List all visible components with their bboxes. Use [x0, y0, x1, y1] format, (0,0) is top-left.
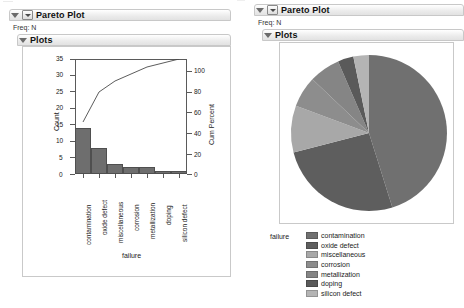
legend-items: contamination oxide defect miscellaneous… [306, 231, 365, 298]
plots-header-left[interactable]: Plots [19, 34, 53, 45]
context-menu-icon[interactable] [22, 10, 33, 20]
legend-label: corrosion [321, 261, 350, 268]
cumulative-percent-line [75, 59, 188, 175]
freq-label: Freq: N [13, 24, 36, 31]
legend-item[interactable]: miscellaneous [306, 250, 365, 260]
legend-label: doping [321, 280, 342, 287]
disclosure-triangle-icon[interactable] [11, 13, 19, 18]
category-label: silicon defect [181, 204, 188, 242]
legend-item[interactable]: contamination [306, 231, 365, 241]
x-axis-title: failure [122, 252, 141, 259]
pie-legend: failure contamination oxide defect misce… [232, 0, 458, 308]
legend-item[interactable]: metallization [306, 269, 365, 279]
legend-swatch-icon [306, 242, 318, 249]
legend-swatch-icon [306, 271, 318, 278]
panel-title: Pareto Plot [36, 10, 85, 20]
legend-item[interactable]: corrosion [306, 260, 365, 270]
legend-swatch-icon [306, 251, 318, 258]
category-label: corrosion [133, 204, 140, 231]
legend-swatch-icon [306, 261, 318, 268]
bar-chart-container: Count Cum Percent failure 0 5 10 15 20 2… [22, 46, 231, 277]
legend-item[interactable]: silicon defect [306, 289, 365, 299]
legend-swatch-icon [306, 232, 318, 239]
legend-item[interactable]: doping [306, 279, 365, 289]
scan-artifact [237, 0, 245, 1]
legend-item[interactable]: oxide defect [306, 241, 365, 251]
category-label: oxide defect [101, 200, 108, 235]
legend-label: silicon defect [321, 290, 361, 297]
legend-title: failure [270, 233, 289, 240]
legend-label: contamination [321, 232, 365, 239]
plots-section-title: Plots [30, 35, 53, 45]
legend-label: miscellaneous [321, 251, 365, 258]
legend-label: oxide defect [321, 242, 359, 249]
category-label: metallization [149, 203, 156, 239]
pareto-plot-panel-right: Pareto Plot Freq: N Plots [232, 0, 458, 308]
y2-axis-title: Cum Percent [208, 104, 215, 145]
panel-header-left[interactable]: Pareto Plot [11, 9, 85, 20]
legend-swatch-icon [306, 280, 318, 287]
pareto-plot-panel-left: Pareto Plot Freq: N Plots Count Cum Perc… [0, 0, 232, 300]
legend-label: metallization [321, 271, 360, 278]
category-label: doping [165, 205, 172, 225]
disclosure-triangle-icon[interactable] [19, 38, 27, 43]
category-label: contamination [85, 205, 92, 245]
legend-swatch-icon [306, 290, 318, 297]
category-label: miscellaneous [117, 202, 124, 243]
scan-artifact [3, 1, 13, 2]
